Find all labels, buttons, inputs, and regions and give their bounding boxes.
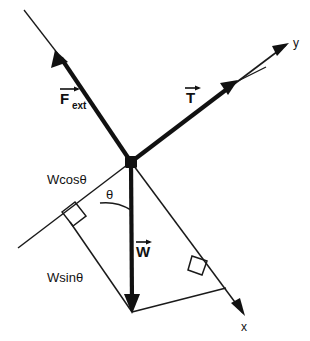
- f-ext-extension-line: [24, 10, 58, 54]
- weight-force-label-group: W: [136, 240, 152, 261]
- diagram-canvas: θ F ext T W Wcosθ: [0, 0, 310, 341]
- x-axis-label: x: [241, 320, 247, 334]
- weight-component-perpendicular-line: [70, 222, 132, 312]
- tension-force-shaft: [131, 86, 231, 162]
- base-closure-line: [132, 288, 226, 312]
- junction-node: [125, 156, 137, 168]
- labels-group: F ext T W Wcosθ Wsinθ y x: [47, 36, 299, 334]
- angle-group: θ: [100, 187, 131, 210]
- weight-force-shaft: [131, 162, 132, 303]
- weight-component-parallel-label: Wcosθ: [47, 172, 87, 187]
- tension-force-label-group: T: [185, 86, 201, 107]
- resultant-hypotenuse: [131, 162, 243, 313]
- y-axis-label: y: [293, 36, 299, 50]
- applied-external-force-symbol: F: [60, 90, 69, 107]
- weight-component-perpendicular-label: Wsinθ: [47, 270, 83, 285]
- right-angle-mark-right: [188, 256, 207, 275]
- incline-angle-label: θ: [106, 187, 113, 202]
- physics-diagram: θ F ext T W Wcosθ: [0, 0, 310, 341]
- t-vector-arrow-tip: [195, 86, 201, 91]
- right-angle-marks: [62, 202, 207, 275]
- weight-force-symbol: W: [136, 243, 151, 260]
- tension-force-symbol: T: [186, 89, 195, 106]
- incline-angle-arc: [100, 203, 131, 210]
- applied-external-force-subscript: ext: [72, 100, 87, 111]
